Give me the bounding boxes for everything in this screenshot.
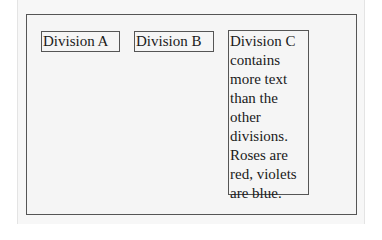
division-a: Division A (41, 31, 120, 52)
division-c: Division C contains more text than the o… (228, 30, 309, 195)
division-b: Division B (134, 31, 214, 52)
